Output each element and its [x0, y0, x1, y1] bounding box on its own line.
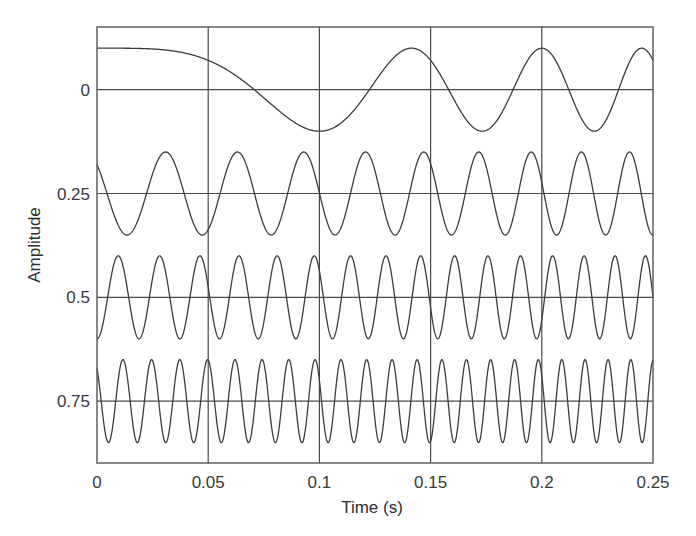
y-tick-label: 0.5 [66, 288, 90, 307]
x-tick-label: 0.05 [192, 473, 225, 492]
chart: 00.050.10.150.20.25 00.250.50.75 Time (s… [0, 0, 696, 536]
y-axis-label: Amplitude [25, 207, 44, 283]
x-tick-label: 0.25 [636, 473, 669, 492]
x-tick-labels: 00.050.10.150.20.25 [92, 473, 669, 492]
y-tick-label: 0.25 [57, 185, 90, 204]
y-tick-label: 0.75 [57, 392, 90, 411]
x-tick-label: 0 [92, 473, 101, 492]
y-tick-label: 0 [81, 81, 90, 100]
x-tick-label: 0.1 [308, 473, 332, 492]
x-tick-label: 0.2 [530, 473, 554, 492]
y-tick-labels: 00.250.50.75 [57, 81, 90, 411]
signal-traces [97, 48, 653, 442]
x-tick-label: 0.15 [414, 473, 447, 492]
x-axis-label: Time (s) [341, 498, 403, 517]
